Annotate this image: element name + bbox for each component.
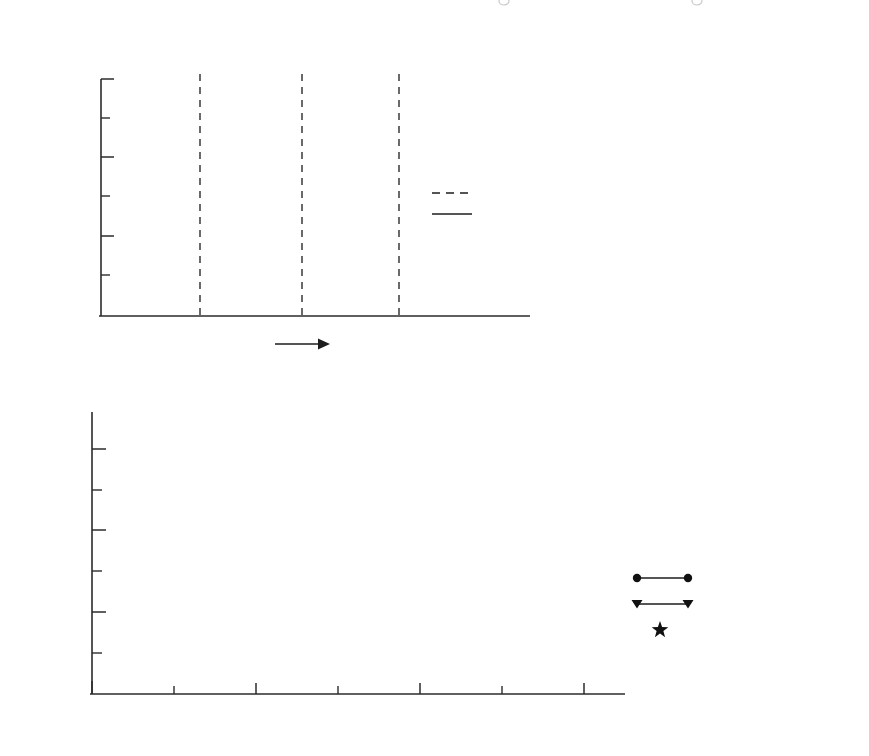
legend-marker-circle-left bbox=[633, 574, 641, 582]
labour-panel-x-ticks bbox=[92, 681, 584, 694]
figure-two-panel-seats-votes bbox=[0, 0, 869, 756]
panel-hypothetical bbox=[99, 74, 530, 350]
legend-marker-star-cube-law bbox=[652, 621, 669, 637]
top-panel-phase-dividers bbox=[200, 74, 399, 316]
top-panel-legend bbox=[432, 193, 472, 214]
labour-panel-legend bbox=[632, 574, 694, 637]
page-bleed-artifacts bbox=[499, 0, 702, 5]
panel-labour-party bbox=[90, 412, 694, 694]
time-direction-arrow bbox=[275, 339, 330, 350]
labour-panel-y-ticks bbox=[92, 449, 106, 653]
top-panel-y-ticks bbox=[101, 79, 114, 275]
legend-marker-circle-right bbox=[684, 574, 692, 582]
figure-svg bbox=[0, 0, 869, 756]
